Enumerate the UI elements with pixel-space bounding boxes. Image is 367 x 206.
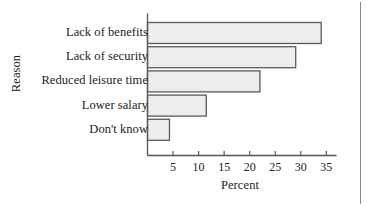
x-tick-label: 35 xyxy=(311,160,341,175)
bars-group xyxy=(148,23,322,141)
category-label: Lack of benefits xyxy=(0,26,148,38)
bar xyxy=(148,95,207,116)
bar xyxy=(148,23,322,44)
category-label: Reduced leisure time xyxy=(0,74,148,86)
category-label: Don't know xyxy=(0,123,148,135)
bar xyxy=(148,47,296,68)
bar-chart-figure: Reason Percent Lack of benefitsLack of s… xyxy=(0,0,367,206)
category-label: Lack of security xyxy=(0,50,148,62)
bar xyxy=(148,119,170,140)
category-label: Lower salary xyxy=(0,99,148,111)
bar xyxy=(148,71,260,92)
x-axis-title: Percent xyxy=(150,178,330,193)
page-divider-line xyxy=(360,2,361,204)
